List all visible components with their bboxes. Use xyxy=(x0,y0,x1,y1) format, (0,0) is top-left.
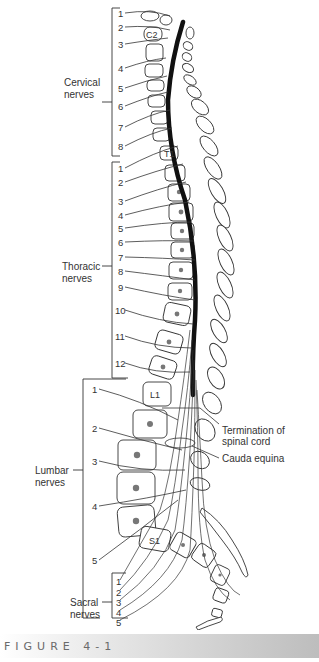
cervical-num: 3 xyxy=(118,39,123,50)
thoracic-num: 7 xyxy=(118,252,123,263)
sacral-label-2: nerves xyxy=(70,609,100,620)
cervical-num: 7 xyxy=(118,122,123,133)
lumbar-label-1: Lumbar xyxy=(35,465,70,476)
thoracic-num: 9 xyxy=(118,282,123,293)
thoracic-num: 10 xyxy=(115,305,126,316)
cervical-num: 1 xyxy=(118,8,123,19)
thoracic-num: 6 xyxy=(118,237,123,248)
vertebra-l1-label: L1 xyxy=(150,390,160,400)
cervical-num: 4 xyxy=(118,63,123,74)
figure-caption-bar: FIGURE 4-1 xyxy=(0,634,319,658)
termination-label-1: Termination of xyxy=(222,425,285,436)
spinous-processes xyxy=(181,27,248,577)
thoracic-label-1: Thoracic xyxy=(62,261,100,272)
sacral-num: 1 xyxy=(116,576,121,587)
sacral-label-1: Sacral xyxy=(70,597,98,608)
thoracic-num: 2 xyxy=(118,177,123,188)
thoracic-num: 5 xyxy=(118,223,123,234)
vertebra-c2-label: C2 xyxy=(146,30,158,40)
thoracic-num: 3 xyxy=(118,196,123,207)
thoracic-num: 1 xyxy=(118,163,123,174)
lumbar-num: 2 xyxy=(92,423,97,434)
thoracic-num: 8 xyxy=(118,266,123,277)
lumbar-label-2: nerves xyxy=(35,477,65,488)
cervical-num: 2 xyxy=(118,22,123,33)
cauda-equina-label: Cauda equina xyxy=(222,453,285,464)
thoracic-label-2: nerves xyxy=(62,273,92,284)
sacral-num: 5 xyxy=(116,617,121,628)
lumbar-num: 3 xyxy=(92,456,97,467)
spinal-nerves-diagram: Cervical nerves Thoracic nerves Lumbar n… xyxy=(0,0,319,630)
lumbar-num: 5 xyxy=(92,555,97,566)
thoracic-num: 11 xyxy=(115,331,125,342)
thoracic-num: 4 xyxy=(118,210,123,221)
cervical-num: 8 xyxy=(118,141,123,152)
vertebra-t1-label: T1 xyxy=(164,149,175,159)
cervical-num: 5 xyxy=(118,83,123,94)
cervical-num: 6 xyxy=(118,101,123,112)
figure-caption: FIGURE 4-1 xyxy=(0,640,116,653)
vertebra-s1-label: S1 xyxy=(149,536,160,546)
cervical-label-2: nerves xyxy=(64,89,94,100)
cervical-label-1: Cervical xyxy=(64,77,100,88)
termination-label-2: spinal cord xyxy=(222,436,270,447)
thoracic-num: 12 xyxy=(115,358,126,369)
lumbar-num: 1 xyxy=(92,384,97,395)
lumbar-num: 4 xyxy=(92,501,97,512)
